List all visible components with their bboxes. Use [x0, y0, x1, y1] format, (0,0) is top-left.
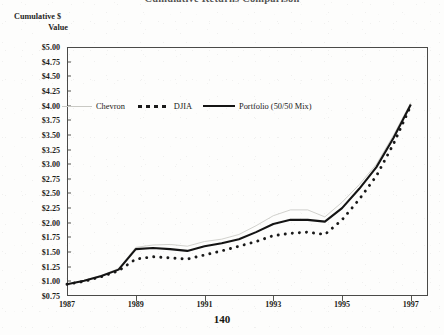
- legend-item: Chevron: [62, 102, 125, 111]
- x-axis-tick-mark: [273, 296, 274, 301]
- y-axis-tick-label: $4.25: [16, 86, 60, 95]
- thin-line-swatch: [62, 106, 92, 107]
- x-axis-tick-label: 1993: [253, 300, 293, 309]
- x-axis-tick-label: 1995: [322, 300, 362, 309]
- y-axis-tick-label: $3.00: [16, 160, 60, 169]
- y-axis-tick-label: $3.25: [16, 145, 60, 154]
- y-axis-tick-label: $4.75: [16, 57, 60, 66]
- y-axis-tick-label: $1.75: [16, 233, 60, 242]
- x-axis-tick-label: 1987: [47, 300, 87, 309]
- dotted-line-swatch: [136, 105, 170, 108]
- x-axis-tick-label: 1991: [185, 300, 225, 309]
- y-axis-caption: Cumulative $ Value: [14, 11, 96, 33]
- y-axis-tick-label: $5.00: [16, 43, 60, 52]
- x-axis-tick-mark: [411, 296, 412, 301]
- y-axis-tick-label: $3.50: [16, 130, 60, 139]
- y-axis-tick-label: $1.00: [16, 277, 60, 286]
- y-axis-caption-line1: Cumulative $: [14, 11, 96, 22]
- y-axis-tick-label: $1.50: [16, 248, 60, 257]
- legend-item-label: Portfolio (50/50 Mix): [239, 102, 312, 111]
- x-axis-tick-label: 1997: [391, 300, 431, 309]
- plot-area: [67, 47, 428, 296]
- y-axis-tick-label: $4.00: [16, 101, 60, 110]
- x-axis-tick-label: 1989: [116, 300, 156, 309]
- y-axis-tick-label: $2.75: [16, 174, 60, 183]
- y-axis-tick-label: $3.75: [16, 116, 60, 125]
- chart-page: Cumulative Returns Comparison Cumulative…: [0, 0, 444, 335]
- y-axis-tick-label: $4.50: [16, 72, 60, 81]
- legend-item-label: Chevron: [96, 102, 125, 111]
- y-axis-tick-label: $2.25: [16, 204, 60, 213]
- y-axis-caption-line2: Value: [14, 22, 96, 33]
- chart-title: Cumulative Returns Comparison: [0, 0, 444, 4]
- x-axis-tick-mark: [136, 296, 137, 301]
- y-axis-tick-label: $1.25: [16, 262, 60, 271]
- legend-item: DJIA: [136, 102, 192, 111]
- page-number: 140: [0, 313, 444, 325]
- legend-item-label: DJIA: [174, 102, 192, 111]
- x-axis-tick-mark: [342, 296, 343, 301]
- x-axis-tick-mark: [205, 296, 206, 301]
- y-axis-tick-label: $2.50: [16, 189, 60, 198]
- legend-item: Portfolio (50/50 Mix): [203, 102, 312, 111]
- chart-legend: ChevronDJIAPortfolio (50/50 Mix): [62, 99, 323, 113]
- thick-line-swatch: [203, 105, 235, 108]
- y-axis-tick-label: $2.00: [16, 218, 60, 227]
